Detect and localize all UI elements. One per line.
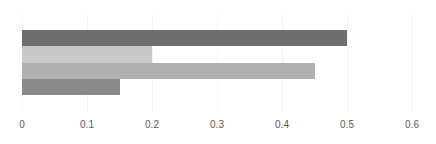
- bar-3[interactable]: [22, 63, 315, 79]
- x-tick-label-0: 0: [19, 118, 25, 132]
- bar-4[interactable]: [22, 79, 120, 95]
- gridline-0.6: [412, 14, 413, 112]
- bar-row: [22, 30, 412, 46]
- x-tick-label-0.2: 0.2: [145, 118, 159, 132]
- bar-chart: 00.10.20.30.40.50.6: [0, 0, 436, 144]
- x-tick-label-0.1: 0.1: [80, 118, 94, 132]
- bar-row: [22, 46, 412, 62]
- x-tick-label-0.3: 0.3: [210, 118, 224, 132]
- x-tick-label-0.5: 0.5: [340, 118, 354, 132]
- x-axis-tick-labels: 00.10.20.30.40.50.6: [0, 118, 436, 134]
- plot-area: [22, 14, 412, 112]
- bar-row: [22, 79, 412, 95]
- bar-2[interactable]: [22, 46, 152, 62]
- bar-1[interactable]: [22, 30, 347, 46]
- x-tick-label-0.4: 0.4: [275, 118, 289, 132]
- x-tick-label-0.6: 0.6: [405, 118, 419, 132]
- bars-group: [22, 30, 412, 95]
- bar-row: [22, 63, 412, 79]
